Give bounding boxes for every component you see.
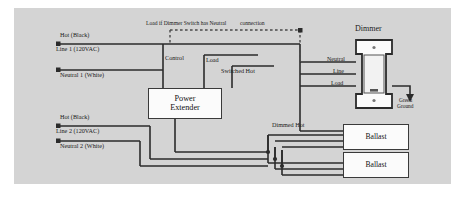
ballast-2-label: Ballast xyxy=(365,161,386,169)
wiring-diagram: Hot (Black) Line 1 (120VAC) Neutral 1 (W… xyxy=(0,0,465,198)
ballast-box-1: Ballast xyxy=(343,124,409,150)
label-load: Load xyxy=(206,57,219,63)
label-dimmer-neutral: Neutral xyxy=(327,56,345,62)
label-hot-black-2: Hot (Black) xyxy=(60,114,89,120)
label-control: Control xyxy=(165,55,184,61)
label-dimmer-load: Load xyxy=(331,80,343,86)
ballast-1-label: Ballast xyxy=(365,133,386,141)
label-neutral-1: Neutral 1 (White) xyxy=(60,72,104,78)
label-line-2: Line 2 (120VAC) xyxy=(56,128,99,134)
dimmer-switch-graphic xyxy=(356,40,392,108)
dimmer-title: Dimmer xyxy=(355,25,382,33)
label-line-1: Line 1 (120VAC) xyxy=(56,46,99,52)
label-dashed-note-left: Load if Dimmer Switch has Neutral xyxy=(146,21,226,27)
label-hot-black-1: Hot (Black) xyxy=(60,32,89,38)
ballast-box-2: Ballast xyxy=(343,152,409,178)
label-green-ground-line2: Ground xyxy=(397,104,413,109)
label-dimmed-hot: Dimmed Hot xyxy=(272,122,304,128)
label-switched-hot: Switched Hot xyxy=(221,68,255,74)
power-extender-label-line2: Extender xyxy=(170,104,200,113)
label-neutral-2: Neutral 2 (White) xyxy=(60,143,104,149)
label-dashed-note-right: connection xyxy=(240,21,265,27)
label-dimmer-line: Line xyxy=(333,68,344,74)
power-extender-box: Power Extender xyxy=(148,88,222,119)
